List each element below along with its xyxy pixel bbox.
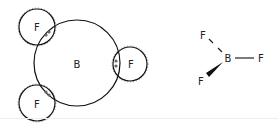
fluorine-label-bottom-left: F xyxy=(34,99,40,110)
shared-electron xyxy=(44,90,47,93)
fluorine-label-top-left: F xyxy=(34,22,40,33)
structural-fluorine-right: F xyxy=(258,53,264,64)
shared-electron xyxy=(47,30,50,33)
shared-electron xyxy=(114,59,117,62)
structural-fluorine-upper-left: F xyxy=(200,30,206,41)
dashed-bond-segment xyxy=(209,39,213,43)
structural-fluorine-lower-left: F xyxy=(198,76,204,87)
fluorine-label-right: F xyxy=(128,59,134,70)
structural-boron-label: B xyxy=(225,53,232,64)
bf3-diagram: B F F F B F F F xyxy=(0,0,278,128)
overlap-diagram: B F F F xyxy=(18,8,148,122)
structural-formula: B F F F xyxy=(198,30,264,87)
dashed-bond-segment xyxy=(218,48,222,52)
boron-label: B xyxy=(74,59,81,70)
shared-electron xyxy=(44,33,47,36)
shared-electron xyxy=(47,93,50,96)
shared-electron xyxy=(114,64,117,67)
divider xyxy=(0,118,278,119)
wedge-bond xyxy=(206,62,223,77)
